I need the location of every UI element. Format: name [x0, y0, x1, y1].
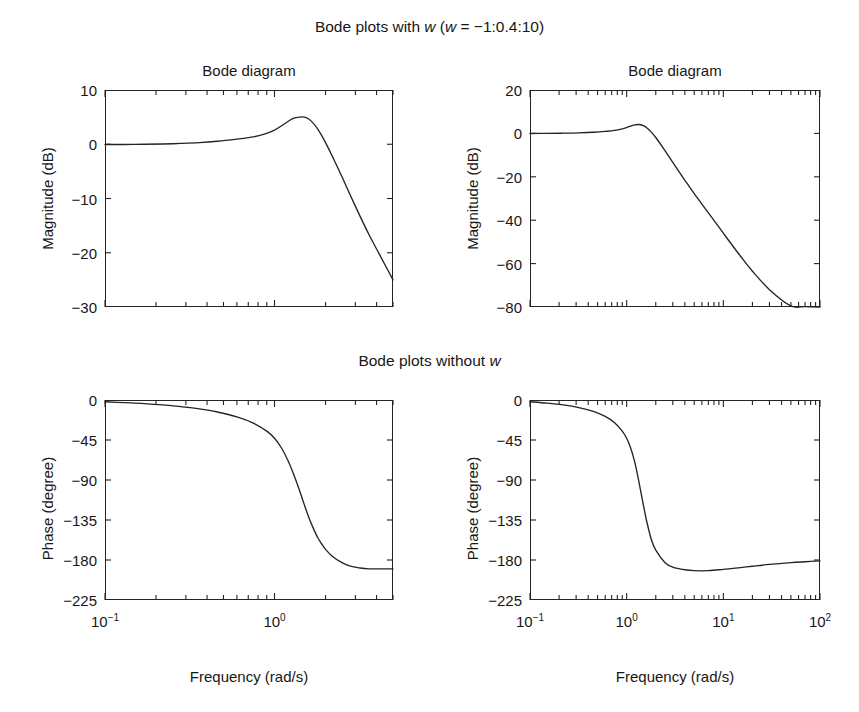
figure-suptitle-top: Bode plots with w (w = −1:0.4:10)	[0, 18, 859, 36]
curve-svg-top-left	[105, 90, 393, 307]
figure-midtitle: Bode plots without w	[0, 352, 859, 370]
curve-svg-bottom-left	[105, 400, 393, 600]
suptitle-top-variable-2: w	[445, 18, 456, 35]
y-tick-label: −30	[45, 299, 97, 316]
axis-label-x-bottom-left: Frequency (rad/s)	[190, 668, 308, 685]
suptitle-top-expression: = −1:0.4:10)	[456, 18, 544, 35]
y-tick-label: −45	[45, 432, 97, 449]
y-tick-label: 0	[470, 392, 522, 409]
curve-svg-bottom-right	[530, 400, 820, 600]
plot-area-top-right	[530, 90, 820, 307]
y-tick-label: −20	[45, 244, 97, 261]
y-tick-label: 0	[45, 392, 97, 409]
subplot-title-top-left: Bode diagram	[105, 62, 393, 79]
y-tick-label: −225	[470, 592, 522, 609]
midtitle-variable: w	[489, 352, 500, 369]
y-tick-label: −10	[45, 190, 97, 207]
suptitle-top-paren: (	[436, 18, 445, 35]
suptitle-top-variable: w	[424, 18, 435, 35]
y-tick-label: −20	[470, 168, 522, 185]
data-curve	[105, 402, 393, 569]
x-tick-label: 100	[263, 612, 285, 630]
data-curve	[105, 117, 393, 280]
y-tick-label: −180	[470, 552, 522, 569]
y-tick-label: −45	[470, 432, 522, 449]
midtitle-prefix: Bode plots without	[358, 352, 489, 369]
y-tick-label: 0	[45, 136, 97, 153]
x-tick-label: 100	[616, 612, 638, 630]
plot-area-top-left	[105, 90, 393, 307]
x-tick-label: 10−1	[516, 612, 544, 630]
x-tick-label: 10−1	[91, 612, 119, 630]
suptitle-top-prefix: Bode plots with	[315, 18, 424, 35]
y-tick-label: −60	[470, 255, 522, 272]
y-tick-label: −135	[45, 512, 97, 529]
plot-area-bottom-right	[530, 400, 820, 600]
y-tick-label: −90	[470, 472, 522, 489]
axis-label-x-bottom-right: Frequency (rad/s)	[616, 668, 734, 685]
data-curve	[530, 124, 820, 307]
y-tick-label: −180	[45, 552, 97, 569]
x-tick-label: 102	[809, 612, 831, 630]
y-tick-label: −135	[470, 512, 522, 529]
bode-figure: Bode plots with w (w = −1:0.4:10) Bode p…	[0, 0, 859, 712]
plot-area-bottom-left	[105, 400, 393, 600]
y-tick-label: −80	[470, 299, 522, 316]
y-tick-label: 0	[470, 125, 522, 142]
curve-svg-top-right	[530, 90, 820, 307]
y-tick-label: 10	[45, 82, 97, 99]
subplot-title-top-right: Bode diagram	[530, 62, 820, 79]
y-tick-label: −40	[470, 212, 522, 229]
x-tick-label: 101	[712, 612, 734, 630]
y-tick-label: −90	[45, 472, 97, 489]
data-curve	[530, 402, 820, 571]
y-tick-label: −225	[45, 592, 97, 609]
y-tick-label: 20	[470, 82, 522, 99]
